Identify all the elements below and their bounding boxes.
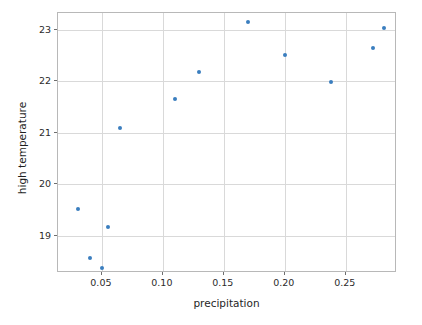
data-point <box>106 225 110 229</box>
y-tick-mark <box>54 235 57 236</box>
data-point <box>173 97 177 101</box>
x-tick-mark <box>345 272 346 275</box>
data-point <box>283 53 287 57</box>
y-tick-label: 21 <box>31 126 51 137</box>
y-tick-label: 23 <box>31 23 51 34</box>
x-tick-label: 0.20 <box>273 277 294 288</box>
x-gridline <box>346 13 347 271</box>
x-tick-label: 0.15 <box>212 277 233 288</box>
x-gridline <box>102 13 103 271</box>
y-tick-label: 22 <box>31 75 51 86</box>
y-axis-label: high temperature <box>16 78 28 218</box>
data-point <box>88 256 92 260</box>
x-tick-mark <box>101 272 102 275</box>
x-tick-mark <box>162 272 163 275</box>
x-gridline <box>224 13 225 271</box>
data-point <box>371 46 375 50</box>
y-gridline <box>58 81 395 82</box>
x-tick-label: 0.10 <box>151 277 172 288</box>
y-tick-label: 19 <box>31 229 51 240</box>
data-point <box>118 126 122 130</box>
x-tick-label: 0.05 <box>90 277 111 288</box>
y-tick-label: 20 <box>31 178 51 189</box>
data-point <box>100 266 104 270</box>
x-axis-label: precipitation <box>57 297 396 309</box>
x-gridline <box>285 13 286 271</box>
x-gridline <box>163 13 164 271</box>
data-point <box>246 20 250 24</box>
x-tick-label: 0.25 <box>334 277 355 288</box>
scatter-chart: precipitation high temperature 0.050.100… <box>0 0 422 325</box>
y-gridline <box>58 133 395 134</box>
plot-area <box>57 12 396 272</box>
y-gridline <box>58 30 395 31</box>
x-tick-mark <box>284 272 285 275</box>
y-tick-mark <box>54 183 57 184</box>
y-tick-mark <box>54 29 57 30</box>
y-tick-mark <box>54 80 57 81</box>
data-point <box>197 70 201 74</box>
y-gridline <box>58 236 395 237</box>
y-gridline <box>58 184 395 185</box>
data-point <box>329 80 333 84</box>
y-tick-mark <box>54 132 57 133</box>
data-point <box>76 207 80 211</box>
x-tick-mark <box>223 272 224 275</box>
